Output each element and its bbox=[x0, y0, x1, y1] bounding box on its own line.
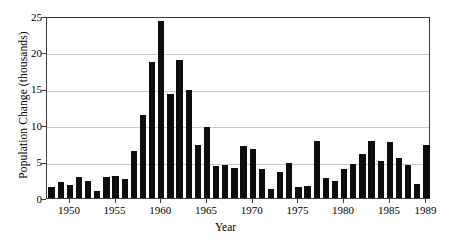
bar bbox=[405, 165, 411, 198]
x-tick-label: 1975 bbox=[277, 204, 317, 216]
bar bbox=[94, 191, 100, 198]
x-tick-label: 1989 bbox=[405, 204, 445, 216]
bar bbox=[359, 154, 365, 198]
x-tick-label: 1985 bbox=[369, 204, 409, 216]
bar-series bbox=[47, 18, 429, 198]
bar bbox=[286, 163, 292, 198]
bar bbox=[112, 176, 118, 198]
x-tick-mark bbox=[389, 199, 390, 203]
x-tick-mark bbox=[160, 199, 161, 203]
x-tick-mark bbox=[69, 199, 70, 203]
bar bbox=[240, 146, 246, 198]
x-tick-mark bbox=[297, 199, 298, 203]
x-tick-mark bbox=[425, 199, 426, 203]
x-tick-label: 1965 bbox=[186, 204, 226, 216]
y-tick-label: 10 bbox=[20, 121, 42, 132]
bar bbox=[85, 181, 91, 198]
x-axis-title: Year bbox=[0, 221, 451, 234]
bar bbox=[167, 94, 173, 198]
bar bbox=[378, 161, 384, 198]
bar bbox=[195, 145, 201, 198]
x-tick-mark bbox=[343, 199, 344, 203]
bar bbox=[58, 182, 64, 198]
bar bbox=[158, 21, 164, 198]
bar bbox=[323, 178, 329, 198]
bar bbox=[350, 164, 356, 198]
bar bbox=[176, 60, 182, 198]
population-change-bar-chart: Population Change (thousands) 0510152025… bbox=[0, 0, 451, 245]
bar bbox=[387, 142, 393, 198]
bar bbox=[277, 172, 283, 198]
bar bbox=[295, 187, 301, 198]
bar bbox=[67, 185, 73, 198]
bar bbox=[396, 158, 402, 198]
bar bbox=[222, 165, 228, 198]
y-tick-label: 20 bbox=[20, 48, 42, 59]
bar bbox=[423, 145, 429, 198]
bar bbox=[304, 186, 310, 198]
bar bbox=[231, 168, 237, 198]
y-tick-label: 5 bbox=[20, 157, 42, 168]
y-tick-label: 15 bbox=[20, 84, 42, 95]
x-tick-mark bbox=[252, 199, 253, 203]
x-tick-label: 1955 bbox=[95, 204, 135, 216]
y-tick-label: 25 bbox=[20, 12, 42, 23]
bar bbox=[332, 181, 338, 198]
plot-area bbox=[46, 17, 430, 199]
bar bbox=[213, 166, 219, 198]
bar bbox=[122, 179, 128, 198]
x-tick-mark bbox=[115, 199, 116, 203]
y-tick-label: 0 bbox=[20, 194, 42, 205]
bar bbox=[314, 141, 320, 198]
bar bbox=[103, 177, 109, 198]
bar bbox=[414, 184, 420, 198]
bar bbox=[250, 149, 256, 198]
y-axis-tick-labels: 0510152025 bbox=[20, 0, 42, 245]
bar bbox=[341, 169, 347, 198]
bar bbox=[268, 189, 274, 198]
x-tick-label: 1970 bbox=[232, 204, 272, 216]
x-tick-label: 1960 bbox=[140, 204, 180, 216]
bar bbox=[204, 127, 210, 198]
bar bbox=[259, 169, 265, 198]
y-tick-mark bbox=[41, 199, 46, 200]
x-tick-mark bbox=[206, 199, 207, 203]
bar bbox=[48, 187, 54, 198]
bar bbox=[368, 141, 374, 199]
bar bbox=[76, 177, 82, 198]
bar bbox=[186, 90, 192, 198]
bar bbox=[131, 151, 137, 198]
bar bbox=[149, 62, 155, 198]
x-tick-label: 1980 bbox=[323, 204, 363, 216]
x-tick-label: 1950 bbox=[49, 204, 89, 216]
bar bbox=[140, 115, 146, 198]
